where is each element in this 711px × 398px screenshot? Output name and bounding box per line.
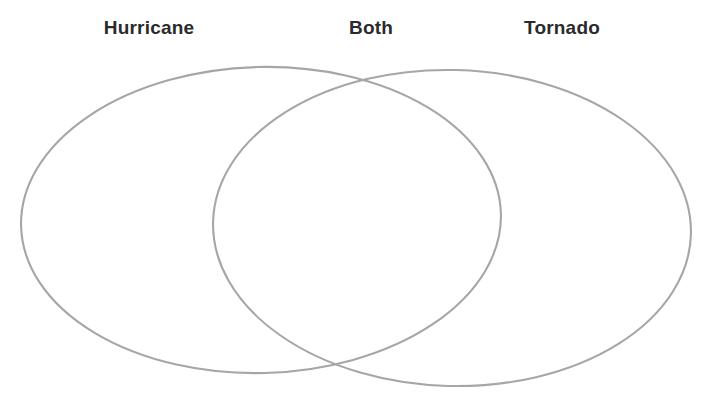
venn-diagram-graphic <box>0 0 711 398</box>
venn-label-both: Both <box>349 18 393 37</box>
venn-label-hurricane: Hurricane <box>104 18 195 37</box>
venn-circle-right-tornado <box>209 64 695 392</box>
venn-diagram-worksheet: Hurricane Both Tornado <box>0 0 711 398</box>
venn-circle-left-hurricane <box>17 61 505 379</box>
venn-label-tornado: Tornado <box>524 18 600 37</box>
